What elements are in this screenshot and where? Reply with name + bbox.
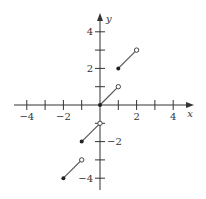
closed-points: [61, 66, 120, 180]
x-tick-label: 2: [133, 111, 139, 122]
y-axis-label: y: [105, 13, 112, 24]
segment-4: [118, 50, 136, 68]
closed-point: [116, 66, 120, 70]
y-axis-arrow-icon: [97, 13, 103, 21]
x-axis-label: x: [187, 108, 193, 119]
open-point: [134, 48, 138, 52]
x-tick-label: −2: [56, 111, 71, 122]
graph: −4 −2 2 4 x 4 2 −2 −4 y: [0, 0, 206, 199]
segment-2: [82, 123, 100, 141]
open-point: [116, 85, 120, 89]
open-point: [98, 121, 102, 125]
x-tick-label: 4: [170, 111, 176, 122]
x-tick-label: −4: [19, 111, 34, 122]
closed-point: [61, 176, 65, 180]
closed-point: [80, 140, 84, 144]
y-tick-label: −4: [78, 173, 93, 184]
y-tick-label: −2: [107, 136, 122, 147]
y-tick-label: 4: [87, 26, 93, 37]
segment-3: [100, 87, 118, 105]
closed-point: [98, 103, 102, 107]
y-tick-label: 2: [87, 63, 93, 74]
open-point: [80, 158, 84, 162]
